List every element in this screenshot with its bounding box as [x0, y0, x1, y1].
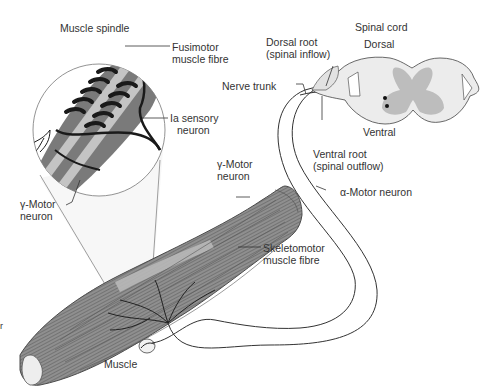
- label-alpha-motor: α-Motor neuron: [340, 186, 412, 198]
- spinal-cord-section: [312, 57, 479, 124]
- label-gamma-inset-2: neuron: [20, 210, 53, 222]
- label-muscle-spindle: Muscle spindle: [60, 22, 129, 34]
- label-skeletomotor-1: Skeletomotor: [263, 242, 325, 254]
- label-ventral: Ventral: [363, 126, 396, 138]
- label-dorsal-root-2: (spinal inflow): [266, 48, 330, 60]
- label-nerve-trunk: Nerve trunk: [222, 80, 276, 92]
- label-fusimotor-1: Fusimotor: [172, 41, 219, 53]
- label-ia-1: Ia sensory: [170, 112, 218, 124]
- spindle-marker: [139, 339, 155, 353]
- label-gamma-main-1: γ-Motor: [217, 158, 253, 170]
- muscle-belly: [20, 186, 302, 385]
- label-spinal-cord: Spinal cord: [355, 21, 408, 33]
- label-skeletomotor-2: muscle fibre: [263, 254, 320, 266]
- label-ventral-root-2: (spinal outflow): [313, 160, 384, 172]
- label-dorsal-root-1: Dorsal root: [266, 36, 317, 48]
- label-gamma-main-2: neuron: [217, 170, 250, 182]
- label-ventral-root-1: Ventral root: [313, 148, 367, 160]
- label-fusimotor-2: muscle fibre: [172, 53, 229, 65]
- label-gamma-inset-1: γ-Motor: [20, 198, 56, 210]
- label-ia-2: neuron: [177, 124, 210, 136]
- label-edge-fragment: r: [0, 320, 3, 332]
- label-muscle: Muscle: [104, 358, 137, 370]
- label-dorsal: Dorsal: [364, 38, 394, 50]
